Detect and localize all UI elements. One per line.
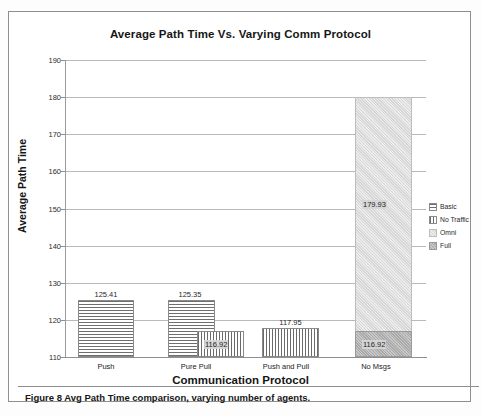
scanned-page: Average Path Time Vs. Varying Comm Proto… (0, 0, 482, 416)
legend-swatch-omni-icon (429, 229, 437, 237)
legend-label-basic: Basic (440, 203, 457, 210)
bar-push-and-pull-no-traffic[interactable] (262, 328, 319, 358)
legend-label-no-traffic: No Traffic (440, 216, 469, 223)
x-category-pure-pull: Pure Pull (156, 362, 236, 371)
legend-swatch-no-traffic-icon (429, 216, 437, 224)
bar-label-pure-pull-basic: 125.35 (162, 290, 218, 299)
x-axis-title: Communication Protocol (9, 374, 472, 386)
bar-no-msgs-omni[interactable] (355, 97, 412, 357)
caption-divider (18, 386, 479, 387)
legend-item-no-traffic[interactable]: No Traffic (429, 213, 475, 226)
legend-swatch-basic-icon (429, 203, 437, 211)
legend-item-basic[interactable]: Basic (429, 200, 475, 213)
legend-label-full: Full (440, 242, 451, 249)
x-axis-line (65, 357, 427, 358)
bar-label-push-basic: 125.41 (78, 290, 134, 299)
y-tick-110: 110 (37, 353, 61, 362)
y-tick-130: 130 (37, 279, 61, 288)
y-tick-120: 120 (37, 316, 61, 325)
gridline-190 (66, 60, 426, 61)
y-tick-140: 140 (37, 242, 61, 251)
plot-area: 125.41 125.35 116.92 117.95 179.93 116.9… (66, 60, 426, 357)
y-tick-180: 180 (37, 93, 61, 102)
chart-legend: Basic No Traffic Omni Full (429, 200, 475, 252)
bar-label-no-msgs-omni: 179.93 (362, 200, 387, 209)
y-tick-160: 160 (37, 167, 61, 176)
y-axis-tick-labels: 190 180 170 160 150 140 130 120 110 (35, 60, 61, 357)
bar-label-no-msgs-full: 116.92 (362, 340, 386, 349)
legend-label-omni: Omni (440, 229, 456, 236)
bar-label-pure-pull-no-traffic: 116.92 (204, 340, 228, 349)
y-tick-150: 150 (37, 205, 61, 214)
x-category-push: Push (66, 362, 146, 371)
y-tick-170: 170 (37, 130, 61, 139)
bar-push-basic[interactable] (78, 300, 134, 357)
legend-swatch-full-icon (429, 242, 437, 250)
x-category-push-and-pull: Push and Pull (246, 362, 326, 371)
legend-item-full[interactable]: Full (429, 239, 475, 252)
x-category-no-msgs: No Msgs (336, 362, 416, 371)
figure-caption: Figure 8 Avg Path Time comparison, varyi… (25, 392, 310, 403)
figure-border-box: Average Path Time Vs. Varying Comm Proto… (8, 11, 471, 402)
legend-item-omni[interactable]: Omni (429, 226, 475, 239)
y-axis-title: Average Path Time (16, 111, 28, 261)
chart-title: Average Path Time Vs. Varying Comm Proto… (9, 28, 472, 40)
bar-label-push-and-pull-no-traffic: 117.95 (262, 318, 319, 327)
y-tick-190: 190 (37, 56, 61, 65)
